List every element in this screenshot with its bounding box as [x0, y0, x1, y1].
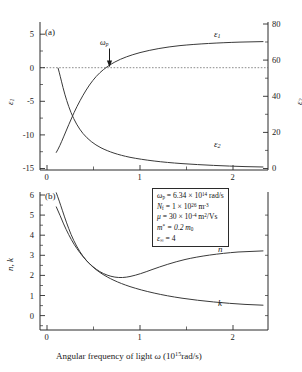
panel-a-ytick-right-0: 80: [272, 20, 281, 29]
panel-b-ytick-3: 3: [14, 251, 34, 260]
param-meff-value: = 0.2 m: [165, 223, 191, 232]
x-axis-unit-base: (10: [163, 351, 175, 361]
param-nf-value: = 1 × 10: [164, 202, 192, 211]
panel-b-ylabel: n, k: [5, 258, 15, 271]
param-meff: m* = 0.2 m0: [157, 223, 224, 234]
panel-a-ytick-right-1: 60: [272, 56, 281, 65]
panel-b-y-ticks: [40, 195, 45, 326]
param-nf-unit-exp: -3: [204, 202, 208, 208]
panel-a-ytick-right-2: 40: [272, 92, 281, 101]
panel-b-ytick-4: 2: [14, 271, 34, 280]
panel-b-xtick-0: 0: [45, 333, 49, 342]
x-axis-omega-symbol: ω: [154, 351, 160, 361]
eps1-label-sub: 1: [218, 33, 221, 39]
param-epsinf-value: = 4: [164, 234, 176, 243]
panel-b-ytick-0: 6: [14, 191, 34, 200]
eps-symbol: ε: [5, 101, 15, 105]
panel-a-ytick-left-4: -15: [8, 164, 34, 173]
panel-b-id: (b): [45, 191, 56, 201]
x-axis-title-text: Angular frequency of light: [56, 351, 152, 361]
param-eps-inf: ε∞ = 4: [157, 234, 224, 244]
x-axis-unit-tail: rad/s): [181, 351, 202, 361]
panel-a-xtick-1: 1: [138, 173, 142, 182]
panel-a-axes: [40, 22, 268, 170]
panel-a-ylabel-right: ε2: [294, 98, 302, 105]
panel-b-svg: [0, 186, 302, 372]
curve-label-epsilon1: ε1: [214, 29, 221, 39]
panel-b-ytick-1: 5: [14, 211, 34, 220]
panel-a-ytick-left-0: 5: [14, 30, 34, 39]
curve-label-k: k: [218, 298, 222, 308]
eps2-label-sub: 2: [218, 143, 221, 149]
omega-p-label: ωp: [100, 38, 108, 47]
curve-epsilon2: [58, 68, 263, 167]
param-mu-unit-tail: /Vs: [207, 213, 218, 222]
panel-a-xtick-2: 2: [231, 173, 235, 182]
eps2-subscript: 2: [298, 98, 302, 101]
panel-b-xtick-2: 2: [231, 333, 235, 342]
x-axis-title: Angular frequency of light ω (1015rad/s): [56, 351, 202, 361]
panel-a-ytick-right-3: 20: [272, 128, 281, 137]
omega-subscript: p: [106, 41, 109, 47]
panel-a-right-ticks: [263, 24, 268, 169]
panel-b-x-ticks: [47, 325, 233, 330]
figure-container: 5 0 -5 -10 -15 80 60 40 20 0 0 1 2 ε1 ε2…: [0, 0, 302, 372]
panel-b-ytick-6: 0: [14, 312, 34, 321]
curve-label-epsilon2: ε2: [214, 139, 221, 149]
panel-b-ytick-2: 4: [14, 231, 34, 240]
panel-b: 6 5 4 3 2 1 0 0 1 2 n, k (b) n k ωp = 6.…: [0, 186, 302, 372]
param-mu-value: = 30 × 10: [161, 213, 192, 222]
panel-a: 5 0 -5 -10 -15 80 60 40 20 0 0 1 2 ε1 ε2…: [0, 0, 302, 186]
panel-a-x-ticks: [47, 165, 233, 170]
param-omega-p: ωp = 6.34 × 1014 rad/s: [157, 191, 224, 202]
panel-b-ytick-5: 1: [14, 292, 34, 301]
panel-a-left-ticks: [40, 34, 45, 168]
eps2-symbol: ε: [294, 101, 302, 105]
panel-b-xtick-1: 1: [138, 333, 142, 342]
param-omega-value: = 6.34 × 10: [165, 191, 202, 200]
param-meff-sub: 0: [191, 226, 194, 232]
parameter-box: ωp = 6.34 × 1014 rad/s Nf = 1 × 1026 m-3…: [152, 188, 229, 247]
panel-a-ytick-right-4: 0: [272, 164, 276, 173]
panel-a-xtick-0: 0: [45, 173, 49, 182]
panel-a-id: (a): [45, 27, 55, 37]
panel-a-ytick-left-1: 0: [14, 64, 34, 73]
param-mu: μ = 30 × 10-4 m2/Vs: [157, 212, 224, 223]
eps-subscript: 1: [9, 98, 15, 101]
param-nf: Nf = 1 × 1026 m-3: [157, 202, 224, 213]
panel-a-ylabel-left: ε1: [5, 98, 15, 105]
panel-a-ytick-left-3: -10: [8, 131, 34, 140]
curve-epsilon1: [56, 42, 263, 153]
param-omega-unit: rad/s: [207, 191, 224, 200]
